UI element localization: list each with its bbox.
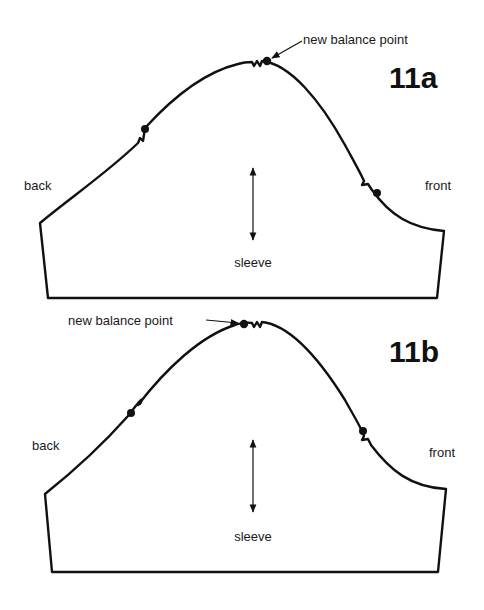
back-label-11a: back: [24, 178, 52, 193]
annotation-arrow-11b: [206, 320, 238, 323]
sleeve-label-11a: sleeve: [234, 255, 272, 270]
figure-id-11a: 11a: [389, 61, 438, 94]
sleeve-label-11b: sleeve: [234, 529, 272, 544]
balance-point-dot-front: [373, 189, 381, 197]
annotation-arrow-11a: [272, 41, 302, 58]
balance-point-dot-top: [263, 57, 271, 65]
balance-point-dot-back: [141, 125, 149, 133]
figure-id-11b: 11b: [389, 335, 439, 368]
balance-point-dot-top: [240, 320, 248, 328]
balance-point-dot-front: [359, 427, 367, 435]
sleeve-pattern-diagram: new balance point 11a back front sleeve …: [0, 0, 484, 610]
front-label-11b: front: [429, 445, 455, 460]
annotation-label-11a: new balance point: [303, 32, 408, 47]
balance-point-dot-back: [127, 409, 135, 417]
back-label-11b: back: [32, 438, 60, 453]
front-label-11a: front: [425, 178, 451, 193]
figure-11a: new balance point 11a back front sleeve: [24, 32, 451, 298]
annotation-label-11b: new balance point: [68, 313, 173, 328]
figure-11b: new balance point 11b back front sleeve: [32, 313, 455, 572]
